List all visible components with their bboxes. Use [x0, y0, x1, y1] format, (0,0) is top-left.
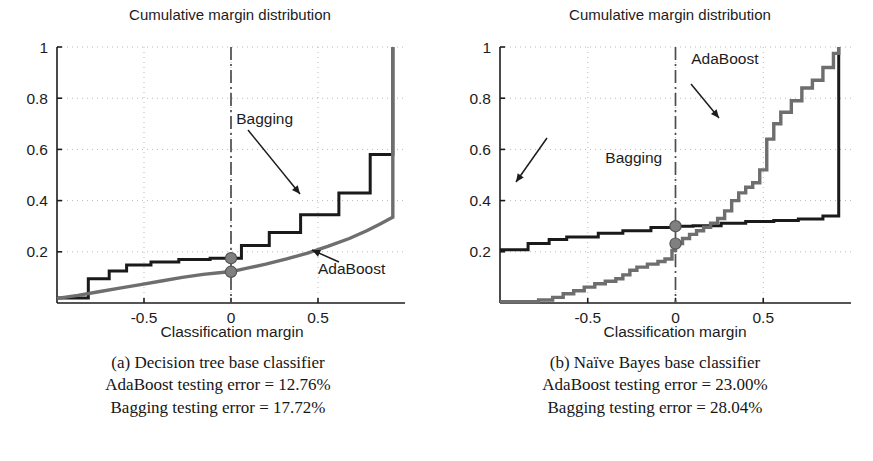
- annotation-arrow: [248, 130, 300, 194]
- plot-a-xaxis-label: Classification margin: [161, 323, 304, 340]
- y-tick-label: 1: [482, 39, 491, 56]
- y-tick-label: 0.8: [469, 90, 491, 107]
- y-tick-label: 0.4: [469, 192, 491, 209]
- caption-b: (b) Naïve Bayes base classifier AdaBoost…: [437, 352, 873, 419]
- plot-b-canvas: Cumulative margin distribution 0.20.40.6…: [437, 0, 873, 350]
- caption-a-line-3: Bagging testing error = 17.72%: [0, 397, 436, 419]
- annotation-arrowhead: [516, 173, 524, 182]
- figure-container: Cumulative margin distribution 0.20.40.6…: [0, 0, 873, 461]
- marker-bagging-at-zero: [670, 221, 681, 232]
- x-tick-label: -0.5: [574, 309, 601, 326]
- plot-a-canvas: Cumulative margin distribution 0.20.40.6…: [0, 0, 436, 350]
- annotation-label-adaboost: AdaBoost: [691, 50, 759, 67]
- plot-b-title: Cumulative margin distribution: [569, 6, 771, 23]
- caption-a: (a) Decision tree base classifier AdaBoo…: [0, 352, 436, 419]
- caption-b-line-3: Bagging testing error = 28.04%: [437, 397, 873, 419]
- marker-bagging-at-zero: [225, 253, 236, 264]
- plot-a-title: Cumulative margin distribution: [129, 6, 331, 23]
- plot-b-body: 0.20.40.60.81-0.500.5AdaBoostBagging: [469, 39, 851, 327]
- caption-b-line-2: AdaBoost testing error = 23.00%: [437, 374, 873, 396]
- marker-adaboost-at-zero: [670, 238, 681, 249]
- panel-a: Cumulative margin distribution 0.20.40.6…: [0, 0, 436, 461]
- plot-a-body: 0.20.40.60.81-0.500.5BaggingAdaBoost: [26, 39, 405, 327]
- x-tick-label: 0.5: [752, 309, 774, 326]
- marker-adaboost-at-zero: [225, 266, 236, 277]
- annotation-label-bagging: Bagging: [236, 110, 293, 127]
- x-tick-label: -0.5: [131, 309, 158, 326]
- panel-b: Cumulative margin distribution 0.20.40.6…: [437, 0, 873, 461]
- x-tick-label: 0.5: [307, 309, 329, 326]
- caption-b-line-1: (b) Naïve Bayes base classifier: [437, 352, 873, 374]
- y-tick-label: 0.2: [469, 243, 491, 260]
- caption-a-line-1: (a) Decision tree base classifier: [0, 352, 436, 374]
- annotation-label-bagging: Bagging: [605, 149, 662, 166]
- y-tick-label: 0.6: [26, 141, 48, 158]
- annotation-label-adaboost: AdaBoost: [318, 260, 386, 277]
- y-tick-label: 0.8: [26, 90, 48, 107]
- plot-b-xaxis-label: Classification margin: [604, 323, 747, 340]
- y-tick-label: 0.6: [469, 141, 491, 158]
- caption-a-line-2: AdaBoost testing error = 12.76%: [0, 374, 436, 396]
- y-tick-label: 0.2: [26, 243, 48, 260]
- series-line-adaboost: [500, 47, 839, 302]
- y-tick-label: 1: [39, 39, 48, 56]
- y-tick-label: 0.4: [26, 192, 48, 209]
- series-line-bagging: [500, 47, 839, 250]
